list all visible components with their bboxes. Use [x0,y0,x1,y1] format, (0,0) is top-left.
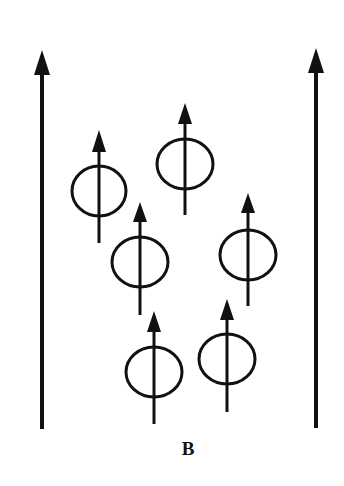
magnetic-field-diagram [0,0,344,486]
dipole-6 [199,299,255,412]
arrowhead-icon [147,311,161,332]
dipole-2 [157,103,213,215]
field-arrow-right [308,48,324,428]
arrowhead-icon [92,130,106,152]
arrowhead-icon [34,50,50,75]
field-label-b: B [168,438,208,460]
dipole-4 [220,193,276,306]
dipole-5 [126,311,182,424]
arrowhead-icon [133,202,147,222]
arrowhead-icon [220,299,234,320]
dipoles [72,103,276,424]
field-lines [34,48,324,429]
arrowhead-icon [178,103,192,124]
arrowhead-icon [241,193,255,213]
field-arrow-left [34,50,50,429]
dipole-1 [72,130,126,243]
dipole-3 [112,202,168,315]
arrowhead-icon [308,48,324,73]
